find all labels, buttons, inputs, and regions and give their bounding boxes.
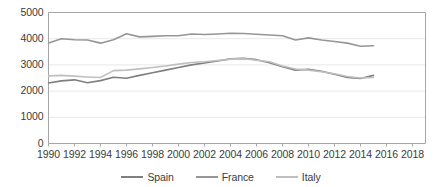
legend-item-spain[interactable]: Spain — [121, 171, 173, 183]
x-tick-label: 2018 — [388, 148, 438, 160]
y-tick-label: 1000 — [21, 110, 44, 122]
y-tick-label: 2000 — [21, 84, 44, 96]
legend-swatch-france — [196, 176, 218, 178]
y-tick-label: 5000 — [21, 6, 44, 18]
series-line-france — [49, 33, 374, 46]
legend-swatch-spain — [121, 176, 143, 178]
legend-label: Spain — [147, 171, 173, 183]
legend-item-italy[interactable]: Italy — [276, 171, 321, 183]
series-line-italy — [49, 59, 374, 78]
legend-label: Italy — [302, 171, 321, 183]
y-tick-label: 4000 — [21, 32, 44, 44]
legend-swatch-italy — [276, 176, 298, 178]
legend-label: France — [222, 171, 254, 183]
line-chart: 010002000300040005000 199019921994199619… — [0, 0, 442, 187]
chart-legend: SpainFranceItaly — [0, 171, 442, 183]
series-line-spain — [49, 58, 374, 83]
y-tick-label: 3000 — [21, 58, 44, 70]
legend-item-france[interactable]: France — [196, 171, 254, 183]
